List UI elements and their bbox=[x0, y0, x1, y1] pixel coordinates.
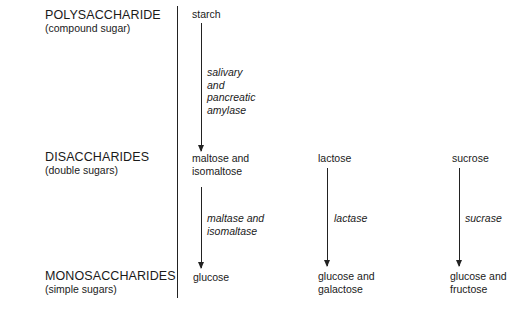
sugar-lactose: lactose bbox=[318, 152, 351, 165]
sugar-line: glucose and bbox=[318, 270, 375, 283]
sugar-sucrose: sucrose bbox=[452, 152, 489, 165]
enzyme-maltase: maltase and isomaltase bbox=[207, 212, 264, 237]
level-disaccharides: DISACCHARIDES (double sugars) bbox=[45, 150, 149, 177]
sugar-maltose-isomaltose: maltose and isomaltose bbox=[192, 152, 249, 177]
arrow-down-icon bbox=[201, 23, 202, 151]
enzyme-line: lactase bbox=[334, 212, 367, 225]
enzyme-line: isomaltase bbox=[207, 225, 264, 238]
arrow-down-icon bbox=[327, 168, 328, 266]
arrow-down-icon bbox=[201, 187, 202, 268]
level-title: MONOSACCHARIDES bbox=[45, 269, 176, 283]
enzyme-sucrase: sucrase bbox=[465, 212, 502, 225]
sugar-line: galactose bbox=[318, 283, 375, 296]
level-subtitle: (compound sugar) bbox=[45, 22, 161, 35]
sugar-line: maltose and bbox=[192, 152, 249, 165]
sugar-glucose: glucose bbox=[193, 271, 229, 284]
enzyme-amylase: salivary and pancreatic amylase bbox=[207, 66, 255, 116]
level-subtitle: (double sugars) bbox=[45, 164, 149, 177]
arrow-down-icon bbox=[459, 168, 460, 266]
sugar-line: fructose bbox=[450, 283, 507, 296]
level-title: DISACCHARIDES bbox=[45, 150, 149, 164]
level-subtitle: (simple sugars) bbox=[45, 283, 176, 296]
enzyme-line: and bbox=[207, 79, 255, 92]
divider-line bbox=[177, 6, 178, 298]
sugar-line: glucose and bbox=[450, 270, 507, 283]
level-title: POLYSACCHARIDE bbox=[45, 8, 161, 22]
level-monosaccharides: MONOSACCHARIDES (simple sugars) bbox=[45, 269, 176, 296]
sugar-starch: starch bbox=[192, 8, 221, 21]
enzyme-line: pancreatic bbox=[207, 91, 255, 104]
enzyme-line: sucrase bbox=[465, 212, 502, 225]
enzyme-line: maltase and bbox=[207, 212, 264, 225]
enzyme-lactase: lactase bbox=[334, 212, 367, 225]
level-polysaccharide: POLYSACCHARIDE (compound sugar) bbox=[45, 8, 161, 35]
sugar-line: glucose bbox=[193, 271, 229, 284]
sugar-glucose-galactose: glucose and galactose bbox=[318, 270, 375, 295]
enzyme-line: amylase bbox=[207, 104, 255, 117]
sugar-glucose-fructose: glucose and fructose bbox=[450, 270, 507, 295]
sugar-line: isomaltose bbox=[192, 165, 249, 178]
enzyme-line: salivary bbox=[207, 66, 255, 79]
